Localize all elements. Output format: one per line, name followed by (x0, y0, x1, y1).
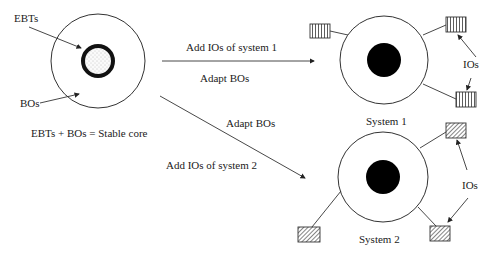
bos-label: BOs (20, 98, 40, 109)
diagram-canvas: EBTs BOs EBTs + BOs = Stable core Add IO… (0, 0, 495, 259)
arrow1-label-bottom: Adapt BOs (200, 73, 249, 84)
stable-core (29, 14, 145, 108)
arrow2-label-bottom: Add IOs of system 2 (166, 160, 257, 171)
system2-label: System 2 (359, 234, 400, 245)
ebts-label: EBTs (14, 13, 38, 24)
system2-ios-label: IOs (462, 180, 478, 191)
arrow2-label-top: Adapt BOs (226, 118, 275, 129)
stable-core-caption: EBTs + BOs = Stable core (31, 128, 147, 139)
system1-label: System 1 (366, 116, 407, 127)
system1 (310, 16, 476, 107)
system2 (298, 123, 468, 242)
system1-ios-label: IOs (463, 59, 479, 70)
arrow1-label-top: Add IOs of system 1 (186, 42, 277, 53)
